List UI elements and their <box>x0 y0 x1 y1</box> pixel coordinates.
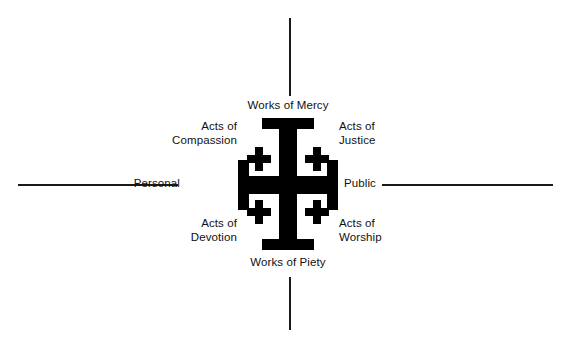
label-acts-of-devotion: Acts of Devotion <box>163 217 237 244</box>
jerusalem-cross-icon <box>236 116 340 252</box>
label-public: Public <box>344 177 404 191</box>
axis-line-top <box>289 18 291 96</box>
axis-line-right <box>382 184 553 186</box>
label-acts-of-compassion: Acts of Compassion <box>163 120 237 147</box>
label-acts-of-justice: Acts of Justice <box>339 120 413 147</box>
label-personal: Personal <box>120 177 180 191</box>
diagram-canvas: Works of Mercy Works of Piety Acts of Co… <box>0 0 571 338</box>
label-works-of-piety: Works of Piety <box>238 256 338 270</box>
label-works-of-mercy: Works of Mercy <box>238 99 338 113</box>
axis-line-bottom <box>289 277 291 330</box>
label-acts-of-worship: Acts of Worship <box>339 217 413 244</box>
